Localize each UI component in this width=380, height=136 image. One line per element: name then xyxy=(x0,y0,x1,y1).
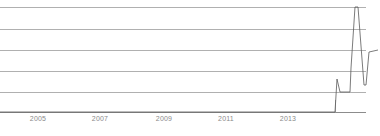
gridlines xyxy=(0,8,366,93)
x-tick-label-2005: 2005 xyxy=(30,115,46,122)
chart-canvas xyxy=(0,0,380,136)
x-tick-label-2011: 2011 xyxy=(218,115,234,122)
x-tick-label-2007: 2007 xyxy=(92,115,108,122)
data-series-line xyxy=(0,7,378,112)
x-tick-label-2009: 2009 xyxy=(156,115,172,122)
line-chart: 20052007200920112013 xyxy=(0,0,380,136)
x-tick-label-2013: 2013 xyxy=(280,115,296,122)
